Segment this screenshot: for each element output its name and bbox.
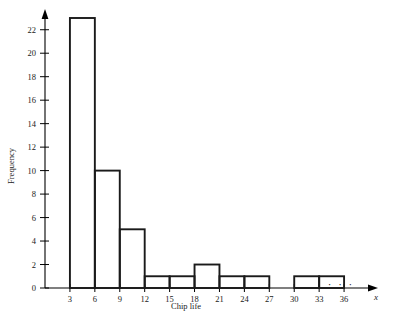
histogram-bar bbox=[170, 276, 195, 288]
y-axis-title: Frequency bbox=[6, 147, 16, 184]
y-tick-label: 0 bbox=[32, 283, 36, 293]
x-tick-label: 3 bbox=[68, 294, 72, 304]
y-axis-arrowhead bbox=[42, 9, 49, 19]
x-tick-label: 36 bbox=[340, 294, 349, 304]
y-tick-label: 2 bbox=[32, 260, 36, 270]
y-axis-tick-labels: 0246810121416182022 bbox=[28, 25, 37, 293]
x-axis-arrowhead bbox=[368, 285, 378, 292]
x-tick-label: 9 bbox=[118, 294, 122, 304]
histogram-bars bbox=[70, 18, 344, 288]
x-axis-tick-labels: 369121518212427303336 bbox=[68, 294, 349, 304]
histogram-bar bbox=[219, 276, 244, 288]
y-tick-label: 14 bbox=[28, 119, 37, 129]
y-tick-label: 12 bbox=[28, 142, 37, 152]
histogram-bar bbox=[70, 18, 95, 288]
x-tick-label: 24 bbox=[240, 294, 249, 304]
y-tick-label: 16 bbox=[28, 95, 37, 105]
histogram-bar bbox=[95, 171, 120, 288]
y-tick-label: 8 bbox=[32, 189, 36, 199]
histogram-bar bbox=[145, 276, 170, 288]
y-tick-label: 10 bbox=[28, 166, 37, 176]
histogram-bar bbox=[195, 265, 220, 288]
y-tick-label: 6 bbox=[32, 213, 36, 223]
histogram-bar bbox=[244, 276, 269, 288]
y-axis: 0246810121416182022 Frequency bbox=[6, 9, 49, 293]
y-tick-label: 18 bbox=[28, 72, 37, 82]
chart-canvas: 0246810121416182022 Frequency 3691215182… bbox=[0, 0, 402, 335]
x-tick-label: 30 bbox=[290, 294, 299, 304]
y-tick-label: 20 bbox=[28, 48, 37, 58]
y-tick-label: 4 bbox=[32, 236, 37, 246]
x-tick-label: 33 bbox=[315, 294, 324, 304]
x-tick-label: 6 bbox=[93, 294, 97, 304]
x-axis-title: Chip life bbox=[171, 301, 201, 311]
histogram-figure: 0246810121416182022 Frequency 3691215182… bbox=[0, 0, 402, 335]
x-tick-label: 12 bbox=[140, 294, 149, 304]
histogram-bar bbox=[294, 276, 319, 288]
y-tick-label: 22 bbox=[28, 25, 37, 35]
x-axis-variable-label: x bbox=[373, 292, 378, 302]
histogram-bar bbox=[120, 229, 145, 288]
x-tick-label: 27 bbox=[265, 294, 274, 304]
x-tick-label: 21 bbox=[215, 294, 224, 304]
